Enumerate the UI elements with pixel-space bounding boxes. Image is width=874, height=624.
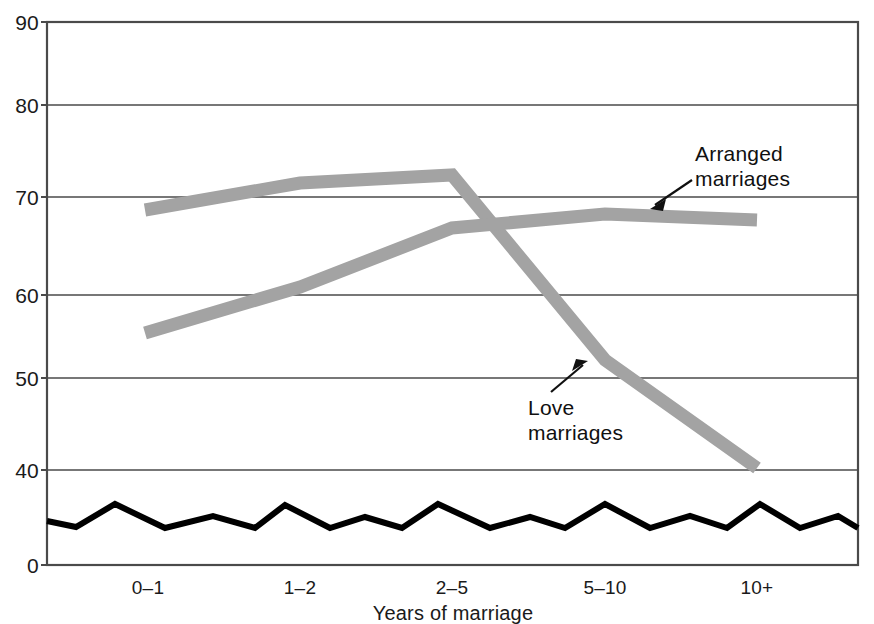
y-axis-label-90: 90 bbox=[0, 12, 39, 33]
annotation-arrow-arranged bbox=[650, 180, 692, 211]
x-axis-label-1-2: 1–2 bbox=[240, 578, 360, 597]
plot-frame bbox=[47, 22, 858, 565]
x-axis-label-2-5: 2–5 bbox=[392, 578, 512, 597]
y-axis-label-50: 50 bbox=[0, 368, 39, 389]
y-axis-label-60: 60 bbox=[0, 285, 39, 306]
x-axis-label-5-10: 5–10 bbox=[545, 578, 665, 597]
series-annotation-love-marriages: Love marriages bbox=[528, 396, 623, 446]
x-axis-label-10-plus: 10+ bbox=[697, 578, 817, 597]
plot-border bbox=[47, 22, 858, 565]
series-annotation-arranged-marriages: Arranged marriages bbox=[695, 142, 790, 192]
annotation-arrow-love bbox=[551, 359, 588, 392]
x-axis-label-0-1: 0–1 bbox=[88, 578, 208, 597]
y-axis-label-40: 40 bbox=[0, 460, 39, 481]
y-axis-label-0: 0 bbox=[0, 555, 39, 576]
y-axis-label-80: 80 bbox=[0, 95, 39, 116]
zigzag-decoration bbox=[47, 504, 858, 528]
y-axis-label-70: 70 bbox=[0, 187, 39, 208]
series-line-love-marriages bbox=[145, 214, 757, 333]
x-axis-title: Years of marriage bbox=[303, 603, 603, 623]
